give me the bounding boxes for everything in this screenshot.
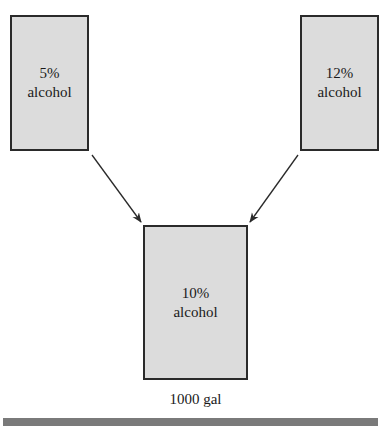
- arrow-left-to-mix: [92, 155, 141, 222]
- tank-percent: 10%: [182, 284, 210, 303]
- volume-caption: 1000 gal: [143, 391, 248, 408]
- tank-mixture: 10% alcohol: [143, 225, 248, 380]
- arrow-right-to-mix: [250, 155, 298, 222]
- divider-bar: [3, 418, 378, 426]
- tank-percent: 5%: [40, 64, 60, 83]
- tank-label: alcohol: [27, 83, 71, 102]
- tank-5-percent: 5% alcohol: [10, 15, 89, 151]
- tank-label: alcohol: [173, 303, 217, 322]
- tank-label: alcohol: [317, 83, 361, 102]
- tank-12-percent: 12% alcohol: [300, 15, 379, 151]
- tank-percent: 12%: [326, 64, 354, 83]
